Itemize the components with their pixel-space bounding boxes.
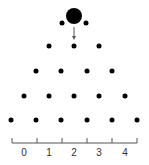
peg: [72, 94, 77, 99]
ball-icon: [66, 8, 82, 24]
peg: [97, 94, 102, 99]
peg: [34, 69, 39, 74]
peg: [85, 69, 90, 74]
peg: [135, 118, 140, 123]
bin-label: 1: [46, 147, 52, 158]
peg: [9, 118, 14, 123]
peg: [85, 118, 90, 123]
peg: [59, 118, 64, 123]
diagram-canvas: [0, 0, 149, 165]
galton-board-diagram: 01234: [0, 0, 149, 165]
peg: [60, 21, 65, 26]
peg: [59, 69, 64, 74]
peg: [123, 94, 128, 99]
peg: [47, 44, 52, 49]
peg: [22, 94, 27, 99]
peg: [72, 44, 77, 49]
arrow-head-icon: [72, 36, 76, 40]
bin-label: 2: [71, 147, 77, 158]
peg: [47, 94, 52, 99]
bin-label: 0: [21, 147, 27, 158]
peg: [84, 21, 89, 26]
peg: [97, 44, 102, 49]
peg: [110, 118, 115, 123]
bin-label: 4: [122, 147, 128, 158]
bin-label: 3: [96, 147, 102, 158]
peg: [34, 118, 39, 123]
peg: [110, 69, 115, 74]
